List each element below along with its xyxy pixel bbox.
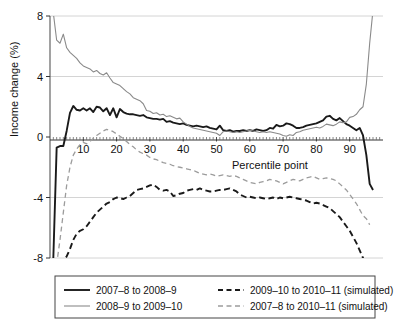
legend-label-2: 2009–10 to 2010–11 (simulated)	[250, 285, 393, 296]
y-tick-label-8: 8	[37, 10, 43, 22]
y-tick-label-0: 0	[37, 131, 43, 143]
legend-label-1: 2007–8 to 2008–9	[96, 285, 177, 296]
x-tick-label-20: 20	[110, 143, 122, 155]
x-axis-tick-labels: 102030405060708090	[77, 143, 356, 155]
x-tick-label-30: 30	[144, 143, 156, 155]
legend-box	[55, 276, 375, 318]
y-tick-label--4: -4	[33, 192, 43, 204]
x-tick-label-50: 50	[210, 143, 222, 155]
income-change-percentile-chart: 840-4-8 102030405060708090 Percentile po…	[0, 0, 405, 328]
x-tick-label-40: 40	[177, 143, 189, 155]
legend-label-3: 2008–9 to 2009–10	[96, 301, 183, 312]
x-tick-label-60: 60	[244, 143, 256, 155]
x-tick-label-80: 80	[310, 143, 322, 155]
legend-label-4: 2007–8 to 2010–11 (simulated)	[250, 301, 388, 312]
x-tick-label-90: 90	[344, 143, 356, 155]
x-tick-label-70: 70	[277, 143, 289, 155]
chart-figure: 840-4-8 102030405060708090 Percentile po…	[0, 0, 405, 328]
x-axis-title: Percentile point	[232, 159, 308, 171]
y-tick-label-4: 4	[37, 71, 43, 83]
y-axis-title: Income change (%)	[8, 42, 20, 137]
y-tick-label--8: -8	[33, 252, 43, 264]
